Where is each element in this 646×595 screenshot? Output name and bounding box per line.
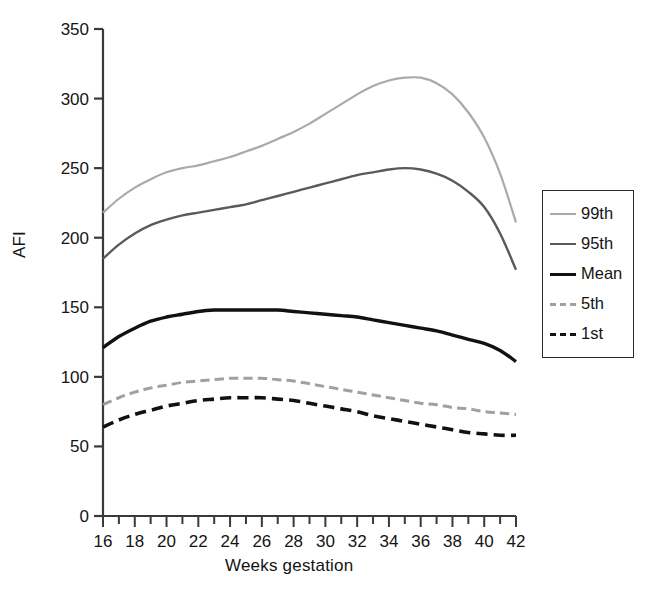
x-tick-label: 24 bbox=[221, 532, 240, 551]
x-tick-label: 16 bbox=[94, 532, 113, 551]
legend-swatch-1st-icon bbox=[550, 327, 576, 339]
y-tick-label: 200 bbox=[61, 229, 89, 248]
legend-item-5th[interactable]: 5th bbox=[550, 290, 634, 316]
axis-lines bbox=[103, 29, 516, 516]
x-tick-label: 32 bbox=[348, 532, 367, 551]
x-tick-label: 26 bbox=[252, 532, 271, 551]
x-tick-label: 22 bbox=[189, 532, 208, 551]
y-tick-label: 300 bbox=[61, 90, 89, 109]
x-axis-title: Weeks gestation bbox=[225, 556, 353, 576]
x-axis-ticks: 1618202224262830323436384042 bbox=[94, 516, 526, 551]
y-tick-label: 250 bbox=[61, 159, 89, 178]
x-tick-label: 42 bbox=[507, 532, 526, 551]
y-tick-label: 100 bbox=[61, 368, 89, 387]
chart-legend: 99th95thMean5th1st bbox=[542, 190, 634, 358]
series-line-95th bbox=[103, 168, 516, 270]
x-tick-label: 28 bbox=[284, 532, 303, 551]
y-axis-title: AFI bbox=[10, 231, 30, 258]
legend-label: Mean bbox=[581, 265, 622, 281]
legend-label: 1st bbox=[581, 325, 603, 341]
legend-label: 95th bbox=[581, 235, 613, 251]
legend-swatch-5th-icon bbox=[550, 297, 576, 309]
y-tick-label: 0 bbox=[80, 507, 89, 526]
legend-label: 99th bbox=[581, 205, 613, 221]
legend-swatch-95th-icon bbox=[550, 237, 576, 249]
x-tick-label: 18 bbox=[125, 532, 144, 551]
legend-swatch-mean-icon bbox=[550, 267, 576, 279]
afi-percentile-chart: 050100150200250300350 161820222426283032… bbox=[0, 0, 646, 595]
x-tick-label: 36 bbox=[411, 532, 430, 551]
y-tick-label: 50 bbox=[70, 437, 89, 456]
y-axis-ticks: 050100150200250300350 bbox=[61, 20, 103, 526]
x-tick-label: 38 bbox=[443, 532, 462, 551]
x-tick-label: 30 bbox=[316, 532, 335, 551]
legend-item-mean[interactable]: Mean bbox=[550, 260, 634, 286]
legend-item-99th[interactable]: 99th bbox=[550, 200, 634, 226]
x-tick-label: 20 bbox=[157, 532, 176, 551]
y-tick-label: 150 bbox=[61, 298, 89, 317]
series-line-1st bbox=[103, 398, 516, 436]
legend-item-95th[interactable]: 95th bbox=[550, 230, 634, 256]
legend-label: 5th bbox=[581, 295, 604, 311]
series-line-mean bbox=[103, 310, 516, 362]
x-tick-label: 34 bbox=[379, 532, 398, 551]
x-tick-label: 40 bbox=[475, 532, 494, 551]
y-tick-label: 350 bbox=[61, 20, 89, 39]
data-series-group bbox=[103, 77, 516, 435]
series-line-5th bbox=[103, 378, 516, 414]
series-line-99th bbox=[103, 77, 516, 222]
legend-item-1st[interactable]: 1st bbox=[550, 320, 634, 346]
legend-swatch-99th-icon bbox=[550, 207, 576, 219]
